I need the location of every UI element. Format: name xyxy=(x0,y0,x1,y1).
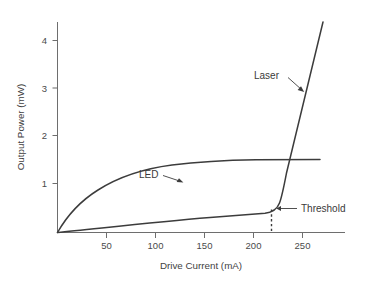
x-tick-label-50: 50 xyxy=(101,240,112,251)
y-tick-label-2: 2 xyxy=(42,130,47,141)
x-tick-label-200: 200 xyxy=(246,240,262,251)
y-axis-ticks: 1 2 3 4 xyxy=(42,35,58,189)
l-i-characteristic-chart: 50 100 150 200 250 1 2 3 4 Drive Current… xyxy=(0,0,370,282)
led-curve xyxy=(58,160,321,233)
laser-curve xyxy=(58,22,324,233)
threshold-annotation: Threshold xyxy=(276,203,345,214)
axes-group xyxy=(58,22,346,233)
laser-label: Laser xyxy=(254,70,280,81)
y-tick-label-4: 4 xyxy=(42,35,47,46)
x-tick-label-150: 150 xyxy=(197,240,213,251)
y-axis-title: Output Power (mW) xyxy=(15,84,26,171)
chart-figure: 50 100 150 200 250 1 2 3 4 Drive Current… xyxy=(0,0,370,282)
threshold-label: Threshold xyxy=(301,203,345,214)
x-tick-label-100: 100 xyxy=(148,240,164,251)
y-tick-label-3: 3 xyxy=(42,83,47,94)
x-tick-label-250: 250 xyxy=(295,240,311,251)
x-axis-ticks: 50 100 150 200 250 xyxy=(101,233,310,252)
y-tick-label-1: 1 xyxy=(42,178,47,189)
x-axis-title: Drive Current (mA) xyxy=(160,260,242,271)
led-annotation: LED xyxy=(139,169,183,182)
laser-annotation: Laser xyxy=(254,70,304,92)
led-label: LED xyxy=(139,169,158,180)
